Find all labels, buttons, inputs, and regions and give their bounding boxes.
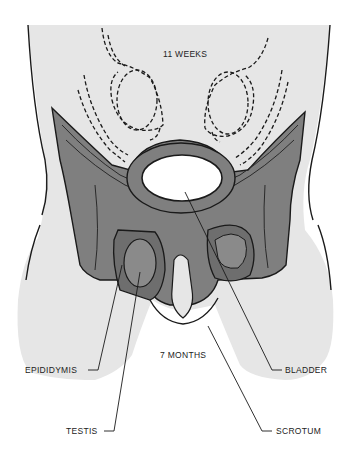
anatomy-illustration	[0, 0, 355, 459]
callout-epididymis: EPIDIDYMIS	[25, 365, 77, 375]
bladder	[142, 155, 222, 201]
stage-label-7-months: 7 MONTHS	[160, 350, 206, 360]
left-testis	[124, 239, 156, 287]
callout-testis: TESTIS	[66, 426, 98, 436]
callout-scrotum: SCROTUM	[276, 426, 321, 436]
callout-bladder: BLADDER	[285, 365, 327, 375]
stage-label-11-weeks: 11 WEEKS	[163, 49, 207, 59]
